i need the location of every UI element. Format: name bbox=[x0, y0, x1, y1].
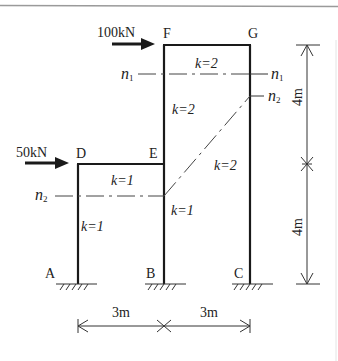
stiffness-label-BE: k=1 bbox=[171, 203, 194, 218]
stiffness-label-CG: k=2 bbox=[214, 158, 237, 173]
node-label-C: C bbox=[234, 266, 243, 281]
top-border bbox=[0, 6, 338, 7]
svg-text:n2: n2 bbox=[268, 87, 281, 105]
dimension-label-BC: 3m bbox=[200, 305, 218, 320]
node-label-G: G bbox=[248, 26, 258, 41]
section-label-n1-right: n1 bbox=[271, 65, 284, 83]
svg-text:n1: n1 bbox=[271, 65, 284, 83]
load-label-50kN: 50kN bbox=[16, 145, 47, 160]
svg-text:n1: n1 bbox=[121, 65, 134, 83]
support-A bbox=[56, 284, 97, 290]
node-label-A: A bbox=[45, 266, 56, 281]
node-label-F: F bbox=[163, 26, 171, 41]
load-label-100kN: 100kN bbox=[97, 25, 135, 40]
dimension-label-upper: 4m bbox=[290, 88, 305, 106]
node-label-D: D bbox=[76, 146, 86, 161]
section-label-n2-right: n2 bbox=[268, 87, 281, 105]
svg-text:n2: n2 bbox=[35, 186, 48, 204]
dimension-label-AB: 3m bbox=[112, 305, 130, 320]
section-label-n1-left: n1 bbox=[121, 65, 134, 83]
dimension-vertical bbox=[296, 45, 320, 284]
support-C bbox=[232, 284, 273, 290]
node-label-E: E bbox=[149, 146, 158, 161]
frame-diagram: 100kN 50kN F G D E A B C k=2 k=2 k=2 k=1… bbox=[0, 0, 338, 361]
stiffness-label-AD: k=1 bbox=[81, 219, 104, 234]
node-label-B: B bbox=[146, 266, 155, 281]
dimension-horizontal bbox=[78, 319, 250, 333]
dimension-label-lower: 4m bbox=[290, 218, 305, 236]
section-label-n2-left: n2 bbox=[35, 186, 48, 204]
stiffness-label-BF-upper: k=2 bbox=[172, 102, 195, 117]
support-B bbox=[145, 284, 186, 290]
stiffness-label-FG: k=2 bbox=[195, 56, 218, 71]
stiffness-label-DE: k=1 bbox=[111, 173, 134, 188]
